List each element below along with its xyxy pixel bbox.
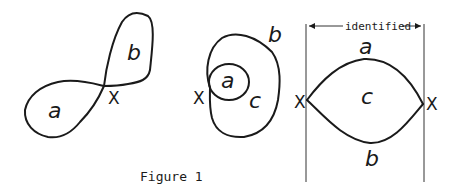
label-a: a xyxy=(359,34,372,59)
label-b: b xyxy=(365,146,379,171)
label-b: b xyxy=(268,22,282,47)
loop-a xyxy=(25,81,104,138)
label-a: a xyxy=(48,98,61,123)
label-c: c xyxy=(249,88,261,113)
left-arrowhead-icon xyxy=(309,23,315,29)
panel-2-nested: a b c X xyxy=(193,22,282,137)
figure-caption: Figure 1 xyxy=(140,169,203,184)
panel-3-lens: identified a c b X X xyxy=(294,20,438,182)
outer-loop xyxy=(207,34,279,137)
label-x-right: X xyxy=(426,94,438,114)
panel-1-wedge: a b X xyxy=(25,13,153,137)
right-arrowhead-icon xyxy=(415,23,421,29)
label-b: b xyxy=(127,40,141,65)
label-x-left: X xyxy=(294,92,306,112)
identified-label: identified xyxy=(345,20,411,33)
label-c: c xyxy=(361,84,373,109)
label-x: X xyxy=(108,88,120,108)
label-x: X xyxy=(193,88,205,108)
label-a: a xyxy=(221,68,234,93)
figure-diagram: a b X a b c X identified a c b X X Figur… xyxy=(0,0,452,196)
